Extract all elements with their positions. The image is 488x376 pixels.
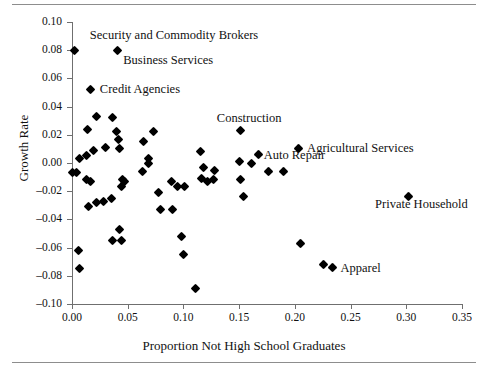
data-point bbox=[167, 205, 177, 215]
data-point bbox=[246, 158, 256, 168]
x-tick-label: 0.00 bbox=[50, 311, 94, 323]
data-point bbox=[148, 127, 158, 137]
x-tick-mark bbox=[72, 304, 73, 309]
y-tick-mark bbox=[67, 191, 72, 192]
y-tick-mark bbox=[67, 135, 72, 136]
data-point bbox=[279, 167, 289, 177]
data-point bbox=[75, 264, 85, 274]
data-point bbox=[138, 137, 148, 147]
y-tick-mark bbox=[67, 163, 72, 164]
y-tick-label: –0.08 bbox=[18, 270, 62, 282]
x-tick-label: 0.05 bbox=[106, 311, 150, 323]
data-point bbox=[180, 182, 190, 192]
data-point bbox=[195, 147, 205, 157]
y-tick-label: –0.06 bbox=[18, 242, 62, 254]
point-annotation: Credit Agencies bbox=[100, 83, 180, 96]
data-point bbox=[137, 167, 147, 177]
data-point bbox=[92, 112, 102, 122]
x-tick-label: 0.35 bbox=[440, 311, 484, 323]
x-tick-label: 0.15 bbox=[217, 311, 261, 323]
x-tick-label: 0.30 bbox=[384, 311, 428, 323]
point-annotation: Construction bbox=[217, 112, 282, 125]
x-tick-label: 0.10 bbox=[161, 311, 205, 323]
data-point bbox=[155, 205, 165, 215]
data-point bbox=[295, 238, 305, 248]
x-tick-mark bbox=[351, 304, 352, 309]
data-point bbox=[83, 124, 93, 134]
data-point bbox=[113, 45, 123, 55]
data-point bbox=[154, 188, 164, 198]
y-tick-label: –0.10 bbox=[18, 298, 62, 310]
point-annotation: Security and Commodity Brokers bbox=[90, 29, 258, 42]
x-tick-mark bbox=[183, 304, 184, 309]
data-point bbox=[107, 236, 117, 246]
x-tick-mark bbox=[239, 304, 240, 309]
x-axis-line bbox=[72, 304, 462, 305]
data-point bbox=[235, 126, 245, 136]
y-tick-mark bbox=[67, 276, 72, 277]
point-annotation: Apparel bbox=[341, 262, 381, 275]
data-point bbox=[235, 175, 245, 185]
y-axis-title: Growth Rate bbox=[16, 78, 32, 218]
data-point bbox=[116, 236, 126, 246]
data-point bbox=[86, 85, 96, 95]
y-tick-mark bbox=[67, 248, 72, 249]
data-point bbox=[178, 250, 188, 260]
x-axis-title: Proportion Not High School Graduates bbox=[0, 338, 488, 354]
y-axis-line bbox=[72, 22, 73, 304]
x-tick-label: 0.20 bbox=[273, 311, 317, 323]
data-point bbox=[86, 176, 96, 186]
point-annotation: Private Household bbox=[375, 198, 468, 211]
data-point bbox=[115, 224, 125, 234]
data-point bbox=[191, 284, 201, 294]
y-tick-label: 0.08 bbox=[18, 44, 62, 56]
data-point bbox=[115, 144, 125, 154]
data-point bbox=[199, 162, 209, 172]
data-point bbox=[210, 165, 220, 175]
data-point bbox=[253, 150, 263, 160]
data-point bbox=[107, 113, 117, 123]
data-point bbox=[328, 262, 338, 272]
data-point bbox=[69, 45, 79, 55]
x-tick-mark bbox=[128, 304, 129, 309]
figure-container: –0.10–0.08–0.06–0.04–0.020.000.020.040.0… bbox=[0, 0, 488, 376]
data-point bbox=[176, 231, 186, 241]
x-tick-mark bbox=[295, 304, 296, 309]
data-point bbox=[263, 167, 273, 177]
point-annotation: Auto Repair bbox=[264, 149, 325, 162]
data-point bbox=[239, 192, 249, 202]
scatter-plot: –0.10–0.08–0.06–0.04–0.020.000.020.040.0… bbox=[0, 0, 488, 376]
y-tick-label: 0.10 bbox=[18, 16, 62, 28]
data-point bbox=[100, 143, 110, 153]
y-tick-mark bbox=[67, 219, 72, 220]
y-tick-mark bbox=[67, 78, 72, 79]
x-tick-mark bbox=[406, 304, 407, 309]
x-tick-label: 0.25 bbox=[329, 311, 373, 323]
y-tick-mark bbox=[67, 107, 72, 108]
y-tick-mark bbox=[67, 22, 72, 23]
data-point bbox=[234, 157, 244, 167]
x-tick-mark bbox=[462, 304, 463, 309]
point-annotation: Business Services bbox=[123, 54, 213, 67]
data-point bbox=[74, 245, 84, 255]
